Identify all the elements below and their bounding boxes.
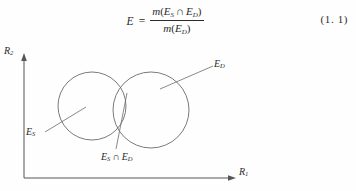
equation-expression: E = m(ES∩ED) m(ED) xyxy=(70,4,260,38)
y-axis-label-subscript: 2 xyxy=(10,49,13,56)
destination-set-circle xyxy=(113,72,189,148)
source-set-label: ES xyxy=(26,126,35,137)
leader-lines-group xyxy=(45,66,213,149)
x-axis-arrowhead xyxy=(228,175,236,181)
source-set-circle xyxy=(58,72,126,140)
equality-operator: = xyxy=(139,15,146,27)
denominator-set: E xyxy=(175,22,182,34)
denominator-close-paren: ) xyxy=(187,22,191,34)
numerator-close-paren: ) xyxy=(198,5,202,17)
destination-set-label-subscript: D xyxy=(220,62,225,69)
numerator-measure-function: m xyxy=(152,5,160,17)
fraction: m(ES∩ED) m(ED) xyxy=(150,6,203,35)
intersection-leader-line xyxy=(116,93,127,149)
x-axis-label: R1 xyxy=(239,166,248,177)
intersection-operator-icon: ∩ xyxy=(174,5,186,17)
destination-set-label: ED xyxy=(214,58,225,69)
fraction-denominator: m(ED) xyxy=(161,21,192,36)
intersection-label-operator-icon: ∩ xyxy=(110,151,121,162)
fraction-numerator: m(ES∩ED) xyxy=(150,6,203,20)
figure-page: E = m(ES∩ED) m(ED) (1. 1) xyxy=(0,0,356,191)
destination-set-leader-line xyxy=(160,66,213,89)
equation-number: (1. 1) xyxy=(321,13,348,25)
venn-diagram-svg xyxy=(0,38,356,191)
source-set-leader-line xyxy=(45,107,86,132)
intersection-label: ES∩ED xyxy=(101,151,133,162)
intersection-label-set-b-subscript: D xyxy=(128,155,133,162)
equation-row: E = m(ES∩ED) m(ED) (1. 1) xyxy=(0,4,356,38)
x-axis-label-subscript: 1 xyxy=(245,170,248,177)
venn-diagram-figure: ES ED ES∩ED R1 R2 xyxy=(0,38,356,191)
y-axis-label: R2 xyxy=(4,45,13,56)
numerator-set-b: E xyxy=(186,5,193,17)
equation-left-hand-side: E xyxy=(126,15,133,27)
numerator-set-a: E xyxy=(164,5,171,17)
y-axis-arrowhead xyxy=(21,53,27,61)
source-set-label-subscript: S xyxy=(32,130,35,137)
